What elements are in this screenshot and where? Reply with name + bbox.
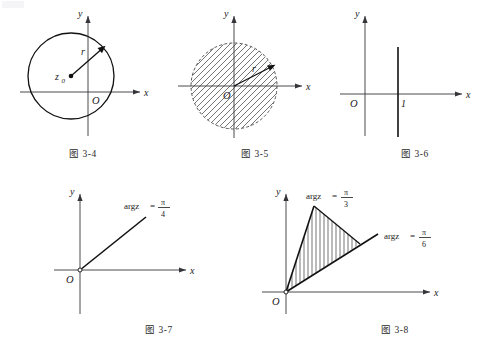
- figure-3-7: argz = π 4 O x y: [46, 186, 246, 314]
- x-axis: [54, 267, 186, 272]
- figure-3-5-caption: 图 3-5: [200, 146, 310, 160]
- y-axis: [85, 16, 90, 136]
- lower-arg-label-equals: =: [410, 231, 415, 241]
- lower-arg-label-text: argz: [384, 231, 399, 241]
- x-axis: [340, 91, 462, 96]
- figure-3-8-caption: 图 3-8: [340, 322, 450, 336]
- origin-label: O: [272, 296, 280, 307]
- y-axis: [77, 194, 82, 314]
- lower-arg-label-denominator: 6: [422, 240, 426, 249]
- figure-3-5-canvas: r O x y: [168, 4, 318, 144]
- y-axis: [283, 194, 288, 314]
- figure-3-4-caption: 图 3-4: [28, 146, 138, 160]
- x-axis-label: x: [465, 89, 471, 100]
- y-axis-label: y: [223, 8, 229, 19]
- figure-3-6-caption: 图 3-6: [360, 146, 470, 160]
- ray-arg-pi-over-4: [80, 217, 146, 270]
- arg-label-numerator: π: [161, 198, 165, 207]
- y-axis-label: y: [77, 8, 83, 19]
- center-label: z: [54, 71, 59, 82]
- figure-3-7-caption: 图 3-7: [104, 322, 214, 336]
- figure-3-4: r z 0 O x y: [8, 4, 158, 144]
- upper-arg-label-text: argz: [306, 191, 321, 201]
- upper-arg-label-denominator: 3: [344, 200, 348, 209]
- upper-arg-label-equals: =: [332, 191, 337, 201]
- arg-label-group: argz = π 4: [124, 198, 170, 219]
- arg-label-denominator: 4: [161, 210, 165, 219]
- figure-3-7-canvas: argz = π 4 O x y: [46, 186, 246, 314]
- y-axis-label: y: [354, 8, 360, 19]
- origin-point: [284, 290, 288, 294]
- center-point: [69, 74, 74, 79]
- figure-sheet: r z 0 O x y 图 3-4: [0, 0, 480, 354]
- origin-label: O: [92, 95, 100, 106]
- arg-label-equals: =: [150, 201, 155, 211]
- figure-3-6: O 1 x y: [330, 4, 478, 144]
- origin-label: O: [66, 274, 74, 285]
- radius-label: r: [81, 46, 85, 57]
- y-axis-label: y: [69, 186, 75, 197]
- figure-3-6-canvas: O 1 x y: [330, 4, 478, 144]
- center-label-subscript: 0: [62, 77, 66, 85]
- sector-cap: [314, 206, 360, 244]
- lower-arg-label-group: argz = π 6: [384, 228, 431, 249]
- x-axis-label: x: [143, 87, 149, 98]
- x-axis: [20, 89, 140, 94]
- upper-arg-label-group: argz = π 3: [306, 188, 353, 209]
- x-axis-label: x: [305, 81, 311, 92]
- figure-3-4-canvas: r z 0 O x y: [8, 4, 158, 144]
- origin-label: O: [223, 90, 231, 101]
- origin-label: O: [350, 98, 358, 109]
- y-axis: [362, 16, 367, 136]
- radius-label: r: [252, 63, 256, 74]
- y-axis-label: y: [275, 186, 281, 197]
- upper-arg-label-numerator: π: [344, 188, 348, 197]
- x-axis-label: x: [189, 265, 195, 276]
- arg-label-text: argz: [124, 201, 139, 211]
- lower-arg-label-numerator: π: [422, 228, 426, 237]
- figure-3-5: r O x y: [168, 4, 318, 144]
- origin-point: [78, 268, 82, 272]
- tick-label-1: 1: [401, 98, 406, 109]
- x-axis-label: x: [433, 287, 439, 298]
- figure-3-8: argz = π 3 argz = π 6 O x y: [254, 186, 474, 314]
- figure-3-8-canvas: argz = π 3 argz = π 6 O x y: [254, 186, 474, 314]
